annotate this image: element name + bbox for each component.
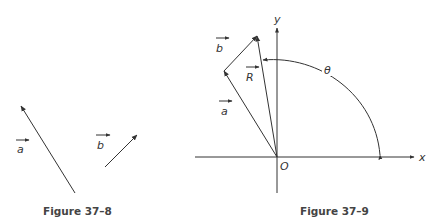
- diagram-canvas: a b Figure 37–8 x y O b R a θ Figure 37–…: [0, 0, 441, 224]
- vector-r-label: R: [246, 71, 254, 84]
- vector-b-arrow: [105, 135, 137, 167]
- figure-caption: Figure 37–9: [300, 205, 369, 217]
- vector-b-arrow: [224, 36, 257, 71]
- vector-a-label: a: [17, 143, 24, 156]
- vector-a-arrow: [21, 106, 75, 193]
- y-axis-label: y: [273, 13, 281, 26]
- figure-37-8: a b Figure 37–8: [16, 106, 137, 217]
- x-axis-label: x: [418, 151, 426, 164]
- figure-caption: Figure 37–8: [43, 205, 112, 217]
- figure-37-9: x y O b R a θ Figure 37–9: [195, 13, 426, 217]
- vector-b-label: b: [216, 42, 223, 55]
- origin-label: O: [280, 160, 289, 173]
- vector-a-label: a: [221, 105, 228, 118]
- vector-r-arrow: [257, 36, 277, 157]
- angle-theta-label: θ: [324, 64, 331, 77]
- vector-b-label: b: [97, 139, 104, 152]
- angle-theta-arc: [263, 60, 380, 155]
